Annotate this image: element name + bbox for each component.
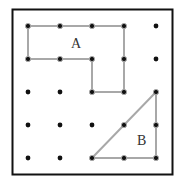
geoboard: AB <box>0 0 177 190</box>
peg <box>57 23 62 28</box>
peg <box>153 89 158 94</box>
shape-a-label: A <box>71 36 82 51</box>
peg <box>90 123 95 128</box>
peg <box>58 156 63 161</box>
peg <box>89 89 94 94</box>
peg <box>153 122 158 127</box>
peg <box>26 156 31 161</box>
peg <box>153 155 158 160</box>
peg <box>58 90 63 95</box>
peg <box>121 155 126 160</box>
peg <box>121 23 126 28</box>
peg <box>25 23 30 28</box>
peg <box>58 123 63 128</box>
peg <box>57 56 62 61</box>
peg <box>154 24 159 29</box>
peg <box>89 56 94 61</box>
peg <box>121 122 126 127</box>
peg <box>121 89 126 94</box>
peg <box>154 57 159 62</box>
shape-b-label: B <box>137 133 146 148</box>
peg <box>25 56 30 61</box>
peg <box>121 56 126 61</box>
peg <box>26 90 31 95</box>
peg <box>89 155 94 160</box>
peg <box>89 23 94 28</box>
peg <box>26 123 31 128</box>
